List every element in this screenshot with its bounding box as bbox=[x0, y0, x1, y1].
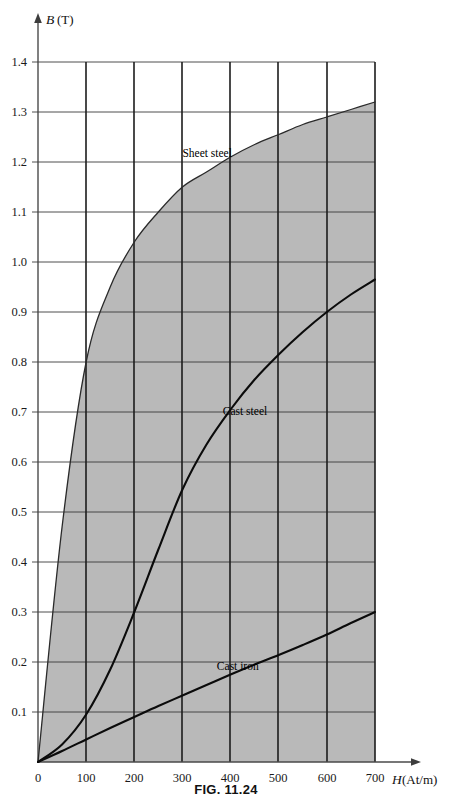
y-tick-label: 0.7 bbox=[11, 405, 27, 419]
x-axis-arrowhead bbox=[411, 758, 421, 766]
y-tick-label: 1.1 bbox=[11, 205, 27, 219]
label-cast-steel: Cast steel bbox=[223, 405, 267, 417]
figure-caption: FIG. 11.24 bbox=[0, 782, 452, 797]
y-tick-label: 1.0 bbox=[11, 255, 27, 269]
label-cast-iron: Cast iron bbox=[217, 660, 259, 672]
figure-container: 1.4 1.3 1.2 1.1 1.0 0.9 0.8 0.7 0.6 0.5 … bbox=[0, 0, 452, 809]
y-tick-label: 0.8 bbox=[11, 355, 27, 369]
y-tick-label: 0.5 bbox=[11, 505, 27, 519]
y-tick-label: 1.3 bbox=[11, 105, 27, 119]
bh-magnetization-chart: 1.4 1.3 1.2 1.1 1.0 0.9 0.8 0.7 0.6 0.5 … bbox=[0, 0, 452, 809]
y-tick-label: 0.1 bbox=[11, 705, 27, 719]
y-axis-ticks bbox=[32, 62, 38, 712]
y-tick-labels: 1.4 1.3 1.2 1.1 1.0 0.9 0.8 0.7 0.6 0.5 … bbox=[11, 55, 27, 719]
y-tick-label: 1.2 bbox=[11, 155, 27, 169]
y-axis-symbol: B bbox=[46, 12, 54, 27]
y-axis-unit: (T) bbox=[57, 12, 74, 27]
label-sheet-steel: Sheet steel bbox=[182, 147, 232, 159]
y-tick-label: 1.4 bbox=[11, 55, 27, 69]
y-tick-label: 0.6 bbox=[11, 455, 27, 469]
y-tick-label: 0.9 bbox=[11, 305, 27, 319]
y-tick-label: 0.3 bbox=[11, 605, 27, 619]
y-axis-title: B (T) bbox=[46, 12, 74, 27]
y-tick-label: 0.2 bbox=[11, 655, 27, 669]
y-axis-arrowhead bbox=[34, 13, 42, 23]
y-tick-label: 0.4 bbox=[11, 555, 27, 569]
